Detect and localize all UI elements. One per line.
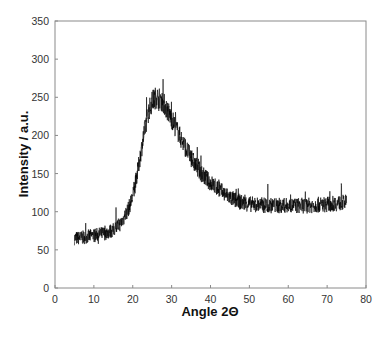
x-tick-label: 30 [166,293,178,305]
plot-border [55,21,366,288]
x-tick-label: 60 [282,293,294,305]
y-tick-label: 350 [31,15,49,27]
y-tick-label: 0 [43,282,49,294]
y-tick-label: 150 [31,168,49,180]
y-tick-label: 100 [31,206,49,218]
x-tick-label: 20 [127,293,139,305]
x-tick-label: 50 [244,293,256,305]
y-tick-label: 250 [31,91,49,103]
x-axis-title: Angle 2Θ [181,304,238,319]
y-tick-label: 50 [37,244,49,256]
xrd-intensity-line [74,79,346,245]
chart-canvas: 01020304050607080 050100150200250300350 … [0,0,391,341]
y-tick-label: 200 [31,129,49,141]
data-series-xrd [74,79,346,245]
x-tick-label: 80 [360,293,372,305]
y-axis-title: Intensity / a.u. [16,111,31,198]
x-tick-label: 70 [321,293,333,305]
x-tick-label: 10 [88,293,100,305]
y-tick-label: 300 [31,53,49,65]
x-tick-label: 0 [52,293,58,305]
xrd-chart: 01020304050607080 050100150200250300350 … [0,0,391,341]
y-axis: 050100150200250300350 [31,15,58,294]
plot-area-frame [55,21,366,288]
